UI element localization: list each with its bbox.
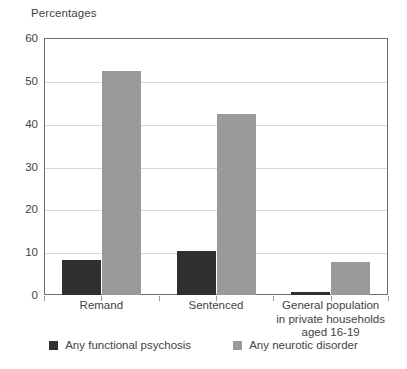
- x-axis-label-line: Remand: [80, 299, 123, 313]
- y-tick-label-0: 0: [0, 289, 38, 301]
- legend-label: Any neurotic disorder: [249, 339, 358, 351]
- chart-legend: Any functional psychosisAny neurotic dis…: [0, 339, 407, 351]
- bar-chart: Percentages 0102030405060 RemandSentence…: [0, 0, 407, 369]
- x-tick-3: [388, 296, 389, 301]
- legend-swatch-icon: [233, 341, 242, 350]
- gridline-50: [45, 82, 387, 83]
- gridline-20: [45, 210, 387, 211]
- legend-swatch-icon: [49, 341, 58, 350]
- gridline-30: [45, 168, 387, 169]
- y-tick-label-60: 60: [0, 32, 38, 44]
- x-axis-label-line: General population: [276, 299, 385, 313]
- y-axis-labels: 0102030405060: [0, 38, 38, 295]
- plot-area: [44, 38, 388, 295]
- chart-title: Percentages: [31, 7, 97, 19]
- y-tick-label-50: 50: [0, 75, 38, 87]
- y-tick-label-10: 10: [0, 246, 38, 258]
- x-axis-label-1: Sentenced: [189, 299, 244, 313]
- x-axis-label-2: General populationin private householdsa…: [276, 299, 385, 340]
- y-tick-label-30: 30: [0, 161, 38, 173]
- y-tick-label-20: 20: [0, 203, 38, 215]
- y-tick-label-40: 40: [0, 118, 38, 130]
- legend-item-0: Any functional psychosis: [49, 339, 191, 351]
- x-axis-label-line: aged 16-19: [276, 326, 385, 340]
- x-axis-label-0: Remand: [80, 299, 123, 313]
- x-axis-label-line: Sentenced: [189, 299, 244, 313]
- gridline-10: [45, 253, 387, 254]
- legend-item-1: Any neurotic disorder: [233, 339, 358, 351]
- x-axis-label-line: in private households: [276, 313, 385, 327]
- gridline-40: [45, 125, 387, 126]
- legend-label: Any functional psychosis: [65, 339, 191, 351]
